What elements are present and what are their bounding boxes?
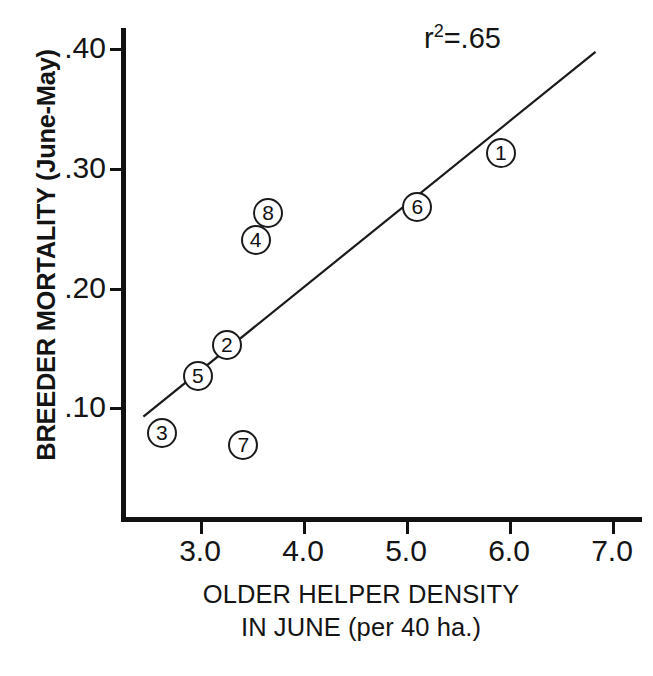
x-tick-4 bbox=[612, 522, 615, 534]
data-point-6: 6 bbox=[402, 192, 432, 222]
r-squared-suffix: =.65 bbox=[444, 22, 501, 54]
x-tick-3 bbox=[509, 522, 512, 534]
y-tick-0 bbox=[110, 48, 122, 51]
data-point-5: 5 bbox=[183, 361, 213, 391]
x-tick-0 bbox=[200, 522, 203, 534]
x-tick-label-2: 5.0 bbox=[366, 535, 446, 567]
r-squared-exponent: 2 bbox=[434, 21, 444, 41]
r-squared-prefix: r bbox=[424, 22, 434, 54]
y-tick-label-0: .40 bbox=[42, 33, 106, 63]
regression-line bbox=[0, 0, 653, 676]
y-tick-3 bbox=[110, 407, 122, 410]
x-axis-title-line-1: OLDER HELPER DENSITY bbox=[203, 580, 520, 608]
y-tick-1 bbox=[110, 168, 122, 171]
x-tick-label-3: 6.0 bbox=[469, 535, 549, 567]
x-axis-title: OLDER HELPER DENSITY IN JUNE (per 40 ha.… bbox=[96, 578, 626, 644]
scatter-plot-figure: BREEDER MORTALITY (June-May) .40 .30 .20… bbox=[0, 0, 653, 676]
data-point-4: 4 bbox=[241, 225, 271, 255]
x-tick-label-1: 4.0 bbox=[263, 535, 343, 567]
x-axis-title-line-2: IN JUNE (per 40 ha.) bbox=[96, 611, 626, 644]
x-tick-label-4: 7.0 bbox=[572, 535, 652, 567]
r-squared-annotation: r2=.65 bbox=[424, 22, 501, 55]
y-tick-label-1: .30 bbox=[42, 153, 106, 183]
data-point-7: 7 bbox=[228, 430, 258, 460]
x-tick-label-0: 3.0 bbox=[160, 535, 240, 567]
y-tick-2 bbox=[110, 288, 122, 291]
data-point-1: 1 bbox=[486, 138, 516, 168]
x-tick-1 bbox=[303, 522, 306, 534]
data-point-8: 8 bbox=[253, 198, 283, 228]
y-tick-label-2: .20 bbox=[42, 273, 106, 303]
y-axis-line bbox=[121, 28, 126, 522]
data-point-3: 3 bbox=[147, 418, 177, 448]
x-tick-2 bbox=[406, 522, 409, 534]
data-point-2: 2 bbox=[212, 330, 242, 360]
y-tick-label-3: .10 bbox=[42, 392, 106, 422]
